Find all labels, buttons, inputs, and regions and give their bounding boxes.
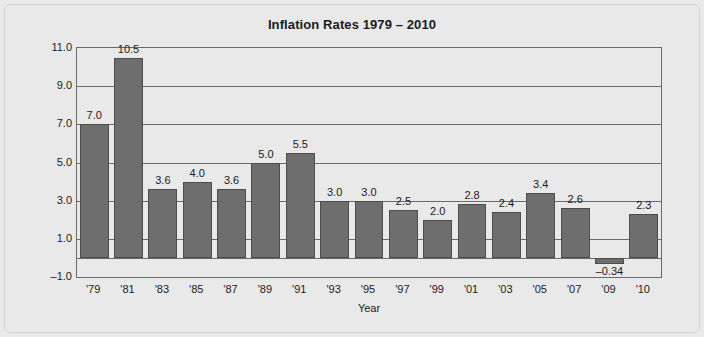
bar[interactable]: [217, 189, 246, 258]
bar-slot[interactable]: 5.5: [283, 48, 317, 277]
x-tick-label: '93: [326, 283, 340, 295]
bar[interactable]: [80, 124, 109, 258]
plot-area: 7.010.53.64.03.65.05.53.03.02.52.02.82.4…: [76, 47, 662, 278]
x-tick-label: '95: [361, 283, 375, 295]
bar-slot[interactable]: 3.6: [214, 48, 248, 277]
y-tick-label: 5.0: [28, 156, 72, 168]
bar[interactable]: [148, 189, 177, 258]
bar-slot[interactable]: 2.8: [455, 48, 489, 277]
bar-slot[interactable]: 2.5: [386, 48, 420, 277]
x-tick-label: '05: [533, 283, 547, 295]
x-tick-label: '97: [395, 283, 409, 295]
bar-slot[interactable]: 4.0: [180, 48, 214, 277]
bar-slot[interactable]: 3.6: [146, 48, 180, 277]
y-tick-label: 9.0: [28, 79, 72, 91]
x-axis-tick-labels: '79'81'83'85'87'89'91'93'95'97'99'01'03'…: [76, 283, 662, 299]
y-tick-label: 7.0: [28, 117, 72, 129]
chart-figure: Inflation Rates 1979 – 2010 11.09.07.05.…: [0, 0, 704, 337]
x-tick-label: '91: [292, 283, 306, 295]
bar-slot[interactable]: 7.0: [77, 48, 111, 277]
bar[interactable]: [320, 201, 349, 258]
bar-value-label: 5.5: [278, 138, 322, 150]
bar[interactable]: [355, 201, 384, 258]
bar-value-label: 3.6: [210, 174, 254, 186]
bar-value-label: 2.6: [553, 193, 597, 205]
bar-slot[interactable]: 10.5: [111, 48, 145, 277]
x-tick-label: '79: [86, 283, 100, 295]
bar[interactable]: [423, 220, 452, 258]
y-axis-tick-labels: 11.09.07.05.03.01.0–1.0: [22, 47, 72, 278]
bar[interactable]: [183, 182, 212, 258]
bar[interactable]: [389, 210, 418, 258]
bar-slot[interactable]: –0.34: [592, 48, 626, 277]
bar-slot[interactable]: 2.3: [627, 48, 661, 277]
bar-slot[interactable]: 3.0: [352, 48, 386, 277]
y-tick-label: 11.0: [28, 41, 72, 53]
x-tick-label: '81: [120, 283, 134, 295]
bar[interactable]: [561, 208, 590, 258]
bar-slot[interactable]: 2.6: [558, 48, 592, 277]
y-tick-label: 3.0: [28, 194, 72, 206]
x-tick-label: '03: [498, 283, 512, 295]
bar-slot[interactable]: 2.0: [421, 48, 455, 277]
bar[interactable]: [629, 214, 658, 258]
x-tick-label: '99: [430, 283, 444, 295]
bar-slot[interactable]: 5.0: [249, 48, 283, 277]
bar[interactable]: [492, 212, 521, 258]
bar-slot[interactable]: 3.4: [524, 48, 558, 277]
bar[interactable]: [251, 163, 280, 258]
bar-value-label: 10.5: [107, 43, 151, 55]
x-tick-label: '09: [601, 283, 615, 295]
y-tick-label: 1.0: [28, 232, 72, 244]
bar[interactable]: [458, 204, 487, 257]
chart-title: Inflation Rates 1979 – 2010: [0, 17, 704, 32]
bar-value-label: 3.4: [519, 178, 563, 190]
x-tick-label: '10: [636, 283, 650, 295]
bar-value-label: –0.34: [587, 265, 631, 277]
bar-value-label: 2.0: [416, 205, 460, 217]
x-tick-label: '87: [223, 283, 237, 295]
bar-value-label: 2.4: [484, 197, 528, 209]
x-axis-title: Year: [76, 302, 662, 314]
bar[interactable]: [114, 58, 143, 258]
bar[interactable]: [526, 193, 555, 258]
bar-slot[interactable]: 3.0: [317, 48, 351, 277]
bar-slot[interactable]: 2.4: [489, 48, 523, 277]
bar-value-label: 2.3: [622, 199, 666, 211]
bar[interactable]: [286, 153, 315, 258]
x-tick-label: '01: [464, 283, 478, 295]
x-tick-label: '83: [155, 283, 169, 295]
x-tick-label: '85: [189, 283, 203, 295]
y-tick-label: –1.0: [28, 270, 72, 282]
x-tick-label: '89: [258, 283, 272, 295]
bar[interactable]: [595, 258, 624, 264]
x-tick-label: '07: [567, 283, 581, 295]
bar-value-label: 7.0: [72, 109, 116, 121]
